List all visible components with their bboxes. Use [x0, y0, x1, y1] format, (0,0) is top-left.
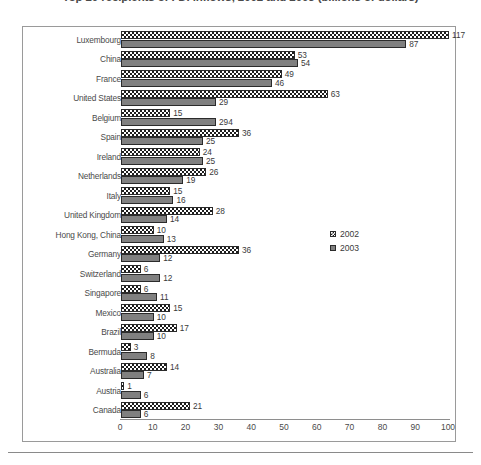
- bar-2002: 21: [121, 402, 457, 410]
- bar-rect-2003: [121, 352, 147, 360]
- bar-value-2003: 12: [160, 273, 172, 283]
- bar-group: 612: [121, 264, 457, 284]
- category-label: Canada: [93, 405, 121, 415]
- bar-2003: 46: [121, 79, 457, 87]
- bar-value-2002: 117: [449, 30, 465, 40]
- bar-rect-2003: [121, 215, 167, 223]
- bar-rect-2002: [121, 148, 200, 156]
- x-tick-label: 30: [214, 422, 223, 432]
- bar-value-2003: 6: [141, 390, 149, 400]
- bar-row: Spain3625: [23, 128, 457, 148]
- bar-value-2003: 25: [203, 136, 215, 146]
- bar-rect-2002: [121, 70, 282, 78]
- x-tick-label: 90: [410, 422, 419, 432]
- bar-value-2003: 87: [406, 39, 418, 49]
- category-label: Luxembourg: [76, 35, 121, 45]
- bar-rect-2003: [121, 235, 164, 243]
- bar-row: Austria16: [23, 381, 457, 401]
- bar-value-2002: 1: [124, 381, 132, 391]
- bar-rect-2002: [121, 109, 170, 117]
- bar-rect-2003: [121, 410, 141, 418]
- bar-group: 3625: [121, 128, 457, 148]
- bar-2003: 8: [121, 352, 457, 360]
- bar-rect-2002: [121, 285, 141, 293]
- category-label: United States: [73, 93, 121, 103]
- x-axis-ticks: 0102030405060708090100: [120, 422, 450, 438]
- category-label: Spain: [101, 132, 121, 142]
- bar-rect-2003: [121, 293, 157, 301]
- bar-rect-2002: [121, 343, 131, 351]
- bar-row: Italy1516: [23, 186, 457, 206]
- category-label: Australia: [90, 366, 121, 376]
- bar-row: Switzerland612: [23, 264, 457, 284]
- bar-row: Bermuda38: [23, 342, 457, 362]
- bar-value-2003: 14: [167, 214, 179, 224]
- bar-group: 1516: [121, 186, 457, 206]
- bar-rect-2003: [121, 313, 154, 321]
- bar-2003: 19: [121, 176, 457, 184]
- bar-row: Canada216: [23, 401, 457, 421]
- bar-group: 15294: [121, 108, 457, 128]
- bar-group: 11787: [121, 30, 457, 50]
- bar-value-2003: 294: [216, 117, 233, 127]
- bar-row: Mexico1510: [23, 303, 457, 323]
- bar-2002: 17: [121, 324, 457, 332]
- bar-2003: 29: [121, 98, 457, 106]
- category-label: Italy: [107, 191, 121, 201]
- bar-group: 216: [121, 401, 457, 421]
- bar-rect-2003: [121, 118, 216, 126]
- legend-label: 2003: [340, 243, 359, 253]
- bar-rect-2003: [121, 196, 173, 204]
- bar-value-2002: 15: [170, 303, 182, 313]
- bar-row: Australia147: [23, 362, 457, 382]
- bar-2002: 49: [121, 70, 457, 78]
- bar-value-2002: 21: [190, 401, 202, 411]
- legend-label: 2002: [340, 229, 359, 239]
- bar-2003: 13: [121, 235, 457, 243]
- bar-2002: 6: [121, 285, 457, 293]
- bar-2002: 3: [121, 343, 457, 351]
- bar-2002: 24: [121, 148, 457, 156]
- category-label: Austria: [96, 386, 121, 396]
- bar-2003: 10: [121, 332, 457, 340]
- bar-rect-2002: [121, 187, 170, 195]
- category-label: Hong Kong, China: [56, 230, 121, 240]
- x-tick-label: 10: [148, 422, 157, 432]
- bar-rect-2003: [121, 391, 141, 399]
- bar-rect-2002: [121, 226, 154, 234]
- bar-2002: 26: [121, 168, 457, 176]
- bar-value-2002: 3: [131, 342, 139, 352]
- x-tick-label: 70: [345, 422, 354, 432]
- bar-2003: 12: [121, 254, 457, 262]
- category-label: Mexico: [96, 308, 121, 318]
- category-label: Singapore: [85, 288, 121, 298]
- bar-group: 1510: [121, 303, 457, 323]
- bar-2003: 16: [121, 196, 457, 204]
- x-tick-label: 0: [118, 422, 123, 432]
- bar-rect-2003: [121, 59, 298, 67]
- bar-group: 1013: [121, 225, 457, 245]
- bar-2002: 15: [121, 304, 457, 312]
- bar-2002: 53: [121, 51, 457, 59]
- bar-value-2003: 29: [216, 97, 228, 107]
- bar-2003: 87: [121, 40, 457, 48]
- bar-row: Singapore611: [23, 284, 457, 304]
- category-label: Germany: [88, 249, 121, 259]
- bar-value-2003: 54: [298, 58, 310, 68]
- bar-row: Germany3612: [23, 245, 457, 265]
- bar-value-2003: 25: [203, 156, 215, 166]
- bar-2003: 25: [121, 137, 457, 145]
- bar-2003: 6: [121, 391, 457, 399]
- bar-value-2003: 19: [183, 175, 195, 185]
- bar-value-2003: 8: [147, 351, 155, 361]
- bar-value-2002: 28: [213, 206, 225, 216]
- bar-row: Netherlands2619: [23, 167, 457, 187]
- bar-row: Ireland2425: [23, 147, 457, 167]
- bar-2002: 63: [121, 90, 457, 98]
- bar-rect-2003: [121, 332, 154, 340]
- bar-rows: Luxembourg11787China5354France4946United…: [23, 30, 457, 420]
- bar-row: United Kingdom2814: [23, 206, 457, 226]
- bar-row: Brazil1710: [23, 323, 457, 343]
- bar-rect-2002: [121, 265, 141, 273]
- legend-swatch-icon: [330, 231, 336, 237]
